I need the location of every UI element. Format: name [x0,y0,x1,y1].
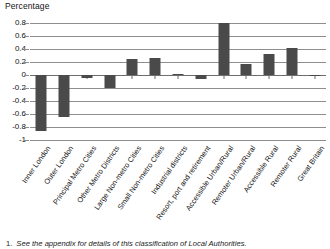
bar [172,74,183,75]
bar [241,64,252,75]
y-axis-tick-mark [24,62,29,63]
bar [127,59,138,75]
chart-figure: Percentage 0.80.60.40.20-0.2-0.4-0.6-0.8… [0,0,330,249]
x-axis-tick-mark [177,75,178,79]
y-axis-tick-mark [24,140,29,141]
footnote-text: See the appendix for details of this cla… [16,239,246,248]
x-axis-tick-mark [155,75,156,79]
bar [218,23,229,75]
bar [264,54,275,75]
x-axis-tick-mark [223,75,224,79]
footnote-marker: 1. [6,239,12,248]
y-axis-tick-mark [24,114,29,115]
x-axis-tick-mark [132,75,133,79]
y-axis-title: Percentage [5,1,49,11]
bar [104,75,115,88]
y-axis-tick-label: -0.8 [0,122,26,131]
bar [150,58,161,75]
x-axis-labels: Inner LondonOuter LondonPrincipal Metro … [30,142,326,232]
bar [81,75,92,78]
y-axis-tick-label: 0.8 [0,18,26,27]
y-axis-tick-label: -0.2 [0,83,26,92]
y-axis-tick-mark [24,88,29,89]
y-axis-tick-mark [24,23,29,24]
y-axis-tick-mark [24,127,29,128]
bar [286,48,297,75]
y-axis-tick-mark [24,49,29,50]
bar [309,75,320,76]
bar [36,75,47,131]
y-axis-tick-label: 0.4 [0,44,26,53]
x-axis-tick-mark [246,75,247,79]
bar [195,75,206,79]
y-axis-tick-label: 0.2 [0,57,26,66]
x-axis-tick-mark [269,75,270,79]
y-axis-tick-label: 0.6 [0,31,26,40]
y-axis-tick-label: -1 [0,135,26,144]
footnote: 1.See the appendix for details of this c… [6,239,326,248]
y-axis-tick-mark [24,75,29,76]
y-axis-tick-label: -0.6 [0,109,26,118]
bar-slot [30,23,53,140]
y-axis-tick-mark [24,101,29,102]
y-axis-tick-mark [24,36,29,37]
y-axis-tick-label: -0.4 [0,96,26,105]
y-axis-tick-label: 0 [0,70,26,79]
x-axis-tick-mark [291,75,292,79]
